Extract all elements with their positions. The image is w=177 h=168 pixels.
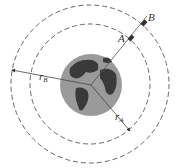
label-rb: rB: [39, 70, 48, 84]
satellite-b-icon: [141, 19, 148, 26]
diagram-canvas: A B rB rA: [0, 0, 177, 168]
orbit-diagram: A B rB rA: [0, 0, 177, 168]
label-ra: rA: [115, 110, 124, 124]
label-a: A: [117, 32, 125, 44]
satellite-a-icon: [128, 34, 135, 41]
label-b: B: [148, 11, 155, 23]
